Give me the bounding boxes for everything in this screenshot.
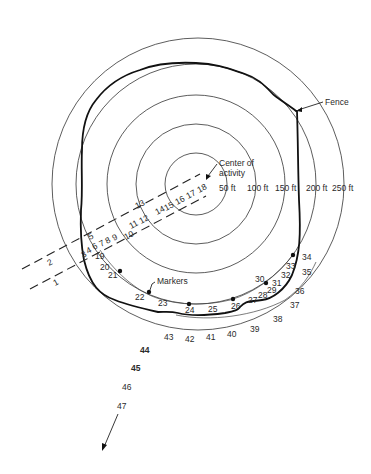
point-18: 18 [195,181,208,194]
marker-26 [231,297,235,301]
corridor-upper-line [22,174,200,269]
exit-points: 44 45 46 47 [102,345,150,451]
point-30: 30 [255,274,265,284]
center-label: Center of activity [219,158,256,178]
ring-label-100ft: 100 ft [247,183,269,193]
point-2: 2 [45,257,54,268]
point-40: 40 [227,329,237,339]
center-label-line-2: activity [219,168,246,178]
markers-callout: Markers [150,276,188,290]
point-42: 42 [185,334,195,344]
ring-label-50ft: 50 ft [219,183,236,193]
markers-label: Markers [157,276,188,286]
point-16: 16 [173,193,186,206]
point-45: 45 [131,363,141,373]
survey-diagram: 50 ft 100 ft 150 ft 200 ft 250 ft Fence … [0,0,371,474]
point-17: 17 [184,187,197,200]
marker-34 [291,253,295,257]
point-1: 1 [51,277,60,288]
point-19: 19 [95,251,105,261]
marker-21 [118,269,122,273]
point-22: 22 [135,292,145,302]
point-21: 21 [108,270,118,280]
fence-callout: Fence [297,97,349,112]
point-36: 36 [295,286,305,296]
ring-label-250ft: 250 ft [332,183,354,193]
center-leader-line [208,164,217,176]
fence-label: Fence [325,97,349,107]
marker-24 [187,302,191,306]
point-37: 37 [290,300,300,310]
center-label-line-1: Center of [219,158,255,168]
point-35: 35 [302,267,312,277]
ring-labels: 50 ft 100 ft 150 ft 200 ft 250 ft [219,183,354,193]
point-27: 27 [248,295,258,305]
point-12: 12 [137,212,150,225]
point-41: 41 [206,332,216,342]
ring-50ft [165,153,227,215]
point-33: 33 [286,261,296,271]
ring-label-150ft: 150 ft [275,183,297,193]
point-32: 32 [281,270,291,280]
point-25: 25 [208,304,218,314]
ring-100ft [136,124,256,244]
point-47: 47 [117,401,127,411]
exit-direction-arrow [104,414,118,447]
center-callout: Center of activity [206,158,256,180]
point-43: 43 [164,332,174,342]
point-38: 38 [273,314,283,324]
point-46: 46 [122,382,132,392]
ring-label-200ft: 200 ft [306,183,328,193]
point-24: 24 [185,305,195,315]
point-44: 44 [140,345,150,355]
point-26: 26 [231,301,241,311]
marker-22 [147,290,151,294]
point-39: 39 [250,324,260,334]
point-23: 23 [158,298,168,308]
point-34: 34 [302,252,312,262]
point-9: 9 [110,232,119,243]
exit-arrowhead-icon [102,443,107,451]
markers-leader-line [150,282,155,290]
marker-30 [264,281,268,285]
